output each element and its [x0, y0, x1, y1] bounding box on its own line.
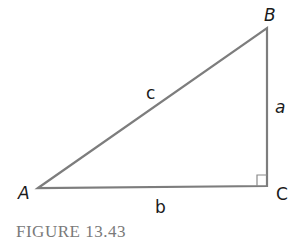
right-angle-marker — [257, 175, 267, 186]
vertex-label-a: A — [17, 183, 30, 203]
triangle-abc — [38, 28, 267, 188]
side-label-a: a — [275, 97, 285, 117]
vertex-label-b: B — [264, 5, 276, 25]
vertex-label-c: C — [276, 184, 288, 204]
side-label-b: b — [155, 197, 166, 217]
right-triangle-diagram: B A C c a b — [0, 0, 308, 245]
figure-caption: FIGURE 13.43 — [16, 222, 126, 242]
side-label-c: c — [146, 83, 155, 103]
